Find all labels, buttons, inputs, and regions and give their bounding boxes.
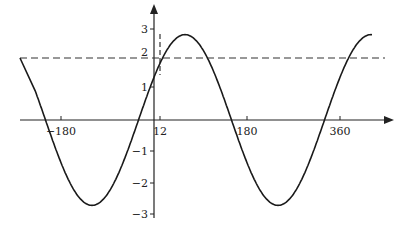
- y-ticks: 321−1−2−3: [132, 23, 154, 221]
- y-tick-label: −3: [132, 208, 148, 221]
- y-tick-label: 3: [141, 23, 148, 36]
- y-tick-label: 1: [141, 81, 148, 94]
- y-tick-label: 2: [141, 46, 148, 59]
- x-tick-label: 12: [153, 125, 167, 138]
- y-tick-label: −1: [132, 145, 148, 158]
- x-axis-arrow-icon: [384, 116, 394, 124]
- sine-graph: −18012180360 321−1−2−3: [0, 0, 404, 232]
- y-axis-arrow-icon: [150, 4, 158, 14]
- y-tick-label: −2: [132, 177, 148, 190]
- x-ticks: −18012180360: [46, 116, 351, 138]
- x-tick-label: 360: [330, 125, 351, 138]
- x-tick-label: 180: [237, 125, 258, 138]
